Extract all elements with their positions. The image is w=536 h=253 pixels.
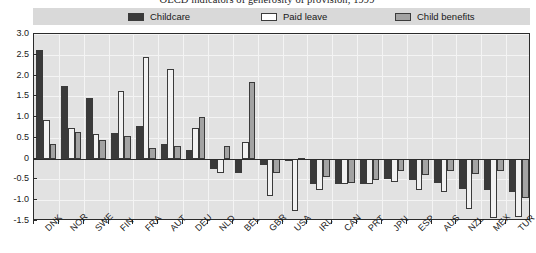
bar-nzl-child-benefits (472, 159, 479, 175)
legend-swatch-paid-leave (261, 13, 277, 21)
gridline-vertical (432, 34, 433, 219)
gridline-vertical (258, 34, 259, 219)
gridline-vertical (233, 34, 234, 219)
bar-swe-childcare (86, 98, 93, 158)
y-axis-labels: 3.02.52.01.51.00.50-0.5-1.0-1.5 (0, 0, 29, 253)
bar-nor-childcare (61, 86, 68, 159)
bar-esp-paid-leave (416, 159, 423, 190)
bar-esp-child-benefits (422, 159, 429, 176)
bar-aut-childcare (161, 144, 168, 159)
bar-can-child-benefits (348, 159, 355, 183)
gridline-vertical (407, 34, 408, 219)
bar-esp-childcare (409, 159, 416, 181)
y-tick-mark (33, 158, 37, 159)
bar-prt-child-benefits (373, 159, 380, 181)
gridline-vertical (59, 34, 60, 219)
bar-mex-childcare (484, 159, 491, 190)
y-tick-label: 0.5 (1, 132, 29, 142)
bar-nld-child-benefits (224, 146, 231, 158)
bar-fra-child-benefits (149, 148, 156, 158)
y-tick-label: -0.5 (1, 173, 29, 183)
legend-label-childcare: Childcare (150, 11, 190, 22)
bar-prt-paid-leave (366, 159, 373, 185)
gridline-vertical (183, 34, 184, 219)
y-tick-label: 1.0 (1, 111, 29, 121)
bar-can-paid-leave (341, 159, 348, 185)
gridline-vertical (283, 34, 284, 219)
bar-fra-childcare (136, 126, 143, 158)
gridline-vertical (158, 34, 159, 219)
bar-fra-paid-leave (143, 57, 150, 159)
bar-can-childcare (335, 159, 342, 185)
y-tick-label: -1.5 (1, 215, 29, 225)
bar-aus-child-benefits (447, 159, 454, 171)
bar-mex-child-benefits (497, 159, 504, 171)
bar-deu-childcare (186, 150, 193, 158)
gridline-vertical (208, 34, 209, 219)
y-tick-mark (33, 199, 37, 200)
gridline-vertical (332, 34, 333, 219)
bar-nor-child-benefits (75, 132, 82, 159)
bar-gbr-paid-leave (267, 159, 274, 196)
y-tick-label: 3.0 (1, 28, 29, 38)
gridline-vertical (133, 34, 134, 219)
bar-nld-childcare (210, 159, 217, 169)
bar-deu-child-benefits (199, 117, 206, 159)
bar-gbr-child-benefits (273, 159, 280, 174)
bar-aut-child-benefits (174, 146, 181, 158)
y-tick-label: 2.0 (1, 70, 29, 80)
y-tick-label: 0 (1, 153, 29, 163)
gridline-vertical (506, 34, 507, 219)
y-tick-label: -1.0 (1, 194, 29, 204)
bar-bel-child-benefits (249, 82, 256, 159)
legend-entry-paid-leave: Paid leave (261, 11, 327, 22)
y-tick-mark (33, 75, 37, 76)
zero-baseline (34, 159, 529, 160)
chart-title: OECD indicators of generosity of provisi… (0, 0, 534, 5)
bar-jpn-paid-leave (391, 159, 398, 182)
y-tick-label: 1.5 (1, 90, 29, 100)
bar-nor-paid-leave (68, 128, 75, 159)
bar-tur-paid-leave (515, 159, 522, 217)
y-tick-mark (33, 54, 37, 55)
bar-mex-paid-leave (490, 159, 497, 218)
bar-swe-child-benefits (99, 140, 106, 159)
y-tick-label: 2.5 (1, 49, 29, 59)
bar-fin-paid-leave (118, 91, 125, 158)
y-tick-mark (33, 178, 37, 179)
y-tick-mark (33, 33, 37, 34)
gridline-vertical (357, 34, 358, 219)
y-tick-mark (33, 116, 37, 117)
legend-swatch-child-benefits (395, 13, 411, 21)
bar-aut-paid-leave (167, 69, 174, 158)
gridline-vertical (456, 34, 457, 219)
gridline-vertical (109, 34, 110, 219)
bar-dnk-paid-leave (43, 120, 50, 158)
bar-tur-childcare (509, 159, 516, 192)
bar-nzl-paid-leave (466, 159, 473, 210)
x-tick-mark (33, 220, 34, 224)
bar-deu-paid-leave (192, 128, 199, 159)
bar-jpn-childcare (384, 159, 391, 180)
bar-swe-paid-leave (93, 134, 100, 159)
legend-entry-childcare: Childcare (128, 11, 190, 22)
bar-nld-paid-leave (217, 159, 224, 174)
bar-nzl-childcare (459, 159, 466, 189)
bar-fin-child-benefits (124, 136, 131, 159)
bar-bel-paid-leave (242, 142, 249, 159)
gridline-vertical (382, 34, 383, 219)
bar-bel-childcare (235, 159, 242, 174)
legend-entry-child-benefits: Child benefits (395, 11, 475, 22)
bar-dnk-child-benefits (50, 144, 57, 159)
bar-jpn-child-benefits (398, 159, 405, 171)
bar-fin-childcare (111, 133, 118, 159)
gridline-vertical (481, 34, 482, 219)
bar-usa-paid-leave (292, 159, 299, 211)
bar-prt-childcare (360, 159, 367, 185)
bar-aus-paid-leave (441, 159, 448, 192)
y-tick-mark (33, 137, 37, 138)
chart-legend: Childcare Paid leave Child benefits (33, 8, 530, 25)
bar-dnk-childcare (36, 50, 43, 159)
bar-irl-paid-leave (316, 159, 323, 190)
